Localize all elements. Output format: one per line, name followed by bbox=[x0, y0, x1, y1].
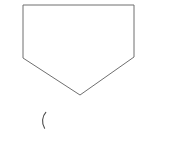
left-parenthesis-mark-icon bbox=[43, 112, 46, 128]
pentagon-shape bbox=[23, 5, 134, 95]
drawing-canvas bbox=[0, 0, 185, 142]
figure-canvas-svg bbox=[0, 0, 185, 142]
